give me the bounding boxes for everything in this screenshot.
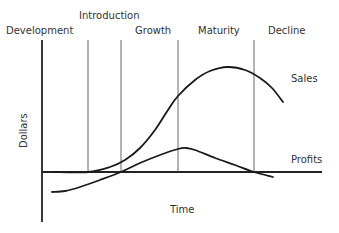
y-axis-label: Dollars xyxy=(18,113,29,148)
stage-label-introduction: Introduction xyxy=(79,10,140,21)
series-label-sales: Sales xyxy=(291,73,318,84)
stage-label-development: Development xyxy=(6,25,73,36)
x-axis-label: Time xyxy=(169,204,194,215)
stage-label-growth: Growth xyxy=(135,25,171,36)
stage-label-decline: Decline xyxy=(268,25,305,36)
series-label-profits: Profits xyxy=(291,154,322,165)
product-life-cycle-chart: Development Introduction Growth Maturity… xyxy=(0,0,339,233)
stage-label-maturity: Maturity xyxy=(198,25,240,36)
profits-curve xyxy=(52,148,273,192)
sales-curve xyxy=(52,67,283,172)
